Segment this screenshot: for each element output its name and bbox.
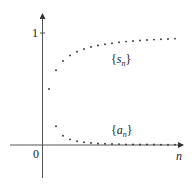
origin-label: 0	[33, 147, 39, 161]
data-point	[118, 41, 120, 43]
data-point	[90, 46, 92, 48]
data-point	[111, 143, 113, 145]
data-point	[104, 43, 106, 45]
data-point	[125, 41, 127, 43]
data-point	[146, 144, 148, 146]
data-point	[132, 40, 134, 42]
x-axis-label: n	[176, 149, 182, 163]
data-point	[97, 142, 99, 144]
data-point	[90, 142, 92, 144]
data-point	[118, 143, 120, 145]
data-point	[132, 143, 134, 145]
data-point	[83, 48, 85, 50]
data-point	[174, 144, 176, 146]
data-point	[146, 39, 148, 41]
data-point	[76, 51, 78, 53]
data-point	[160, 38, 162, 40]
a-n-label: {an}	[111, 123, 133, 139]
data-point	[125, 143, 127, 145]
data-point	[62, 60, 64, 62]
data-point	[167, 38, 169, 40]
y-tick-label-1: 1	[32, 26, 38, 40]
data-point	[153, 39, 155, 41]
data-point	[83, 141, 85, 143]
data-point	[55, 125, 57, 127]
s-n-label: {sn}	[111, 52, 131, 68]
data-point	[48, 88, 50, 90]
data-point	[153, 144, 155, 146]
data-point	[55, 69, 57, 71]
data-point	[76, 140, 78, 142]
data-point	[139, 40, 141, 42]
data-point	[167, 144, 169, 146]
data-point	[160, 144, 162, 146]
data-point	[69, 138, 71, 140]
data-point	[174, 38, 176, 40]
data-point	[111, 42, 113, 44]
data-point	[139, 143, 141, 145]
data-point	[62, 135, 64, 137]
data-point	[69, 54, 71, 56]
sequence-chart: 1 0 n {sn} {an}	[0, 0, 195, 186]
data-point	[104, 143, 106, 145]
data-point	[97, 44, 99, 46]
